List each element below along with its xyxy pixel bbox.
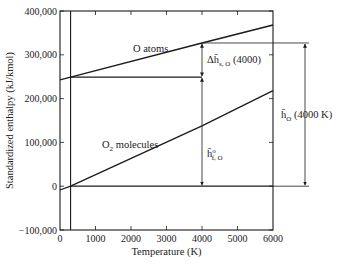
- x-tick-label: 5000: [228, 233, 248, 244]
- annotations-group: O atomsO2 moleculesΔh̄s, O (4000)h̄of, O…: [102, 43, 333, 186]
- x-tick-label: 0: [58, 233, 63, 244]
- x-tick-label: 4000: [192, 233, 212, 244]
- y-tick-label: 200,000: [25, 93, 58, 104]
- y-tick-label: −100,000: [19, 225, 57, 236]
- o-atoms-label: O atoms: [133, 43, 168, 54]
- y-axis-label: Standardized enthalpy (kJ/kmol): [4, 51, 16, 189]
- x-tick-label: 3000: [157, 233, 177, 244]
- o2-molecules-line: [60, 91, 273, 190]
- y-tick-label: 400,000: [25, 6, 58, 17]
- enthalpy-chart: −100,0000100,000200,000300,000400,000 01…: [0, 0, 338, 270]
- x-axis-label: Temperature (K): [131, 246, 202, 258]
- y-tick-label: 0: [52, 181, 57, 192]
- x-tick-label: 6000: [263, 233, 283, 244]
- y-tick-label: 100,000: [25, 137, 58, 148]
- h-total-label: h̄O (4000 K): [281, 109, 333, 123]
- y-tick-label: 300,000: [25, 49, 58, 60]
- x-tick-label: 2000: [121, 233, 141, 244]
- y-axis: −100,0000100,000200,000300,000400,000: [19, 6, 273, 236]
- delta-h-label: Δh̄s, O (4000): [207, 54, 261, 68]
- hf-label: h̄of, O: [207, 147, 223, 162]
- o2-molecules-label: O2 molecules: [102, 139, 158, 153]
- x-axis: 0100020003000400050006000: [58, 11, 284, 244]
- x-tick-label: 1000: [86, 233, 106, 244]
